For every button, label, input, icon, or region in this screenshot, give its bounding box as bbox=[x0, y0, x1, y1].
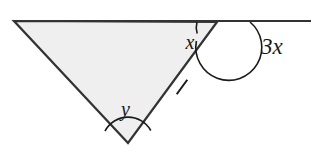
geometry-canvas: x 3x y bbox=[0, 0, 322, 153]
geometry-figure: x 3x y bbox=[0, 0, 322, 153]
label-interior-angle-x: x bbox=[185, 31, 195, 53]
tick-right-side bbox=[177, 80, 188, 95]
label-apex-angle-y: y bbox=[119, 98, 130, 121]
label-exterior-angle-3x: 3x bbox=[260, 34, 284, 59]
